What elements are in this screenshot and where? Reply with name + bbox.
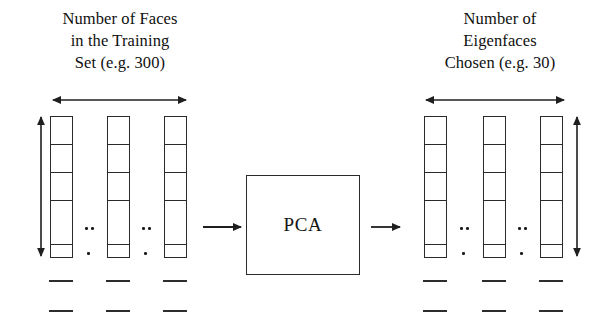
left-dash-row-1-item-3 xyxy=(163,280,187,282)
pca-process-box: PCA xyxy=(246,175,360,275)
ellipsis-left-2 xyxy=(142,227,154,257)
eigenface-vector-1-cell-3 xyxy=(425,173,446,201)
face-vector-n-cell-1 xyxy=(165,117,186,145)
ellipsis-right-1-dot-b xyxy=(466,227,469,230)
ellipsis-right-2 xyxy=(518,227,530,257)
ellipsis-left-1-dot-c xyxy=(87,252,90,255)
eigenface-vector-1-cell-2 xyxy=(425,145,446,173)
ellipsis-right-2-dot-b xyxy=(524,227,527,230)
face-vector-2-cell-3 xyxy=(108,173,129,201)
ellipsis-right-2-dot-c xyxy=(520,252,523,255)
eigenface-vector-2 xyxy=(483,116,506,258)
eigenface-vector-k-cell-2 xyxy=(541,145,562,173)
eigenface-vector-k-cell-5 xyxy=(541,245,562,259)
ellipsis-left-1-dot-a xyxy=(85,227,88,230)
face-vector-1 xyxy=(50,116,73,258)
ellipsis-right-1 xyxy=(460,227,472,257)
ellipsis-right-2-dot-a xyxy=(518,227,521,230)
face-vector-2-cell-4 xyxy=(108,201,129,245)
ellipsis-right-1-dot-a xyxy=(460,227,463,230)
diagram-canvas: Number of Faces in the Training Set (e.g… xyxy=(0,0,603,328)
face-vector-2-cell-1 xyxy=(108,117,129,145)
ellipsis-left-1-dot-b xyxy=(91,227,94,230)
ellipsis-right-1-dot-c xyxy=(462,252,465,255)
ellipsis-left-2-dot-a xyxy=(142,227,145,230)
face-vector-2-cell-5 xyxy=(108,245,129,259)
face-vector-1-cell-2 xyxy=(51,145,72,173)
eigenface-vector-1-cell-4 xyxy=(425,201,446,245)
right-dash-row-1-item-2 xyxy=(482,280,506,282)
eigenface-vector-2-cell-4 xyxy=(484,201,505,245)
eigenface-vector-1-cell-1 xyxy=(425,117,446,145)
face-vector-n-cell-5 xyxy=(165,245,186,259)
face-vector-1-cell-5 xyxy=(51,245,72,259)
face-vector-2 xyxy=(107,116,130,258)
caption-left-line-1: Number of Faces xyxy=(10,8,230,30)
right-dash-row-2-item-3 xyxy=(539,310,563,312)
eigenface-vector-2-cell-5 xyxy=(484,245,505,259)
ellipsis-left-2-dot-c xyxy=(144,252,147,255)
face-vector-1-cell-1 xyxy=(51,117,72,145)
face-vector-2-cell-2 xyxy=(108,145,129,173)
caption-left: Number of Faces in the Training Set (e.g… xyxy=(10,8,230,73)
right-dash-row-1-item-3 xyxy=(539,280,563,282)
caption-right-line-1: Number of xyxy=(400,8,600,30)
left-dash-row-2-item-2 xyxy=(106,310,130,312)
caption-left-line-3: Set (e.g. 300) xyxy=(10,52,230,74)
face-vector-1-cell-4 xyxy=(51,201,72,245)
eigenface-vector-k-cell-1 xyxy=(541,117,562,145)
face-vector-n-cell-4 xyxy=(165,201,186,245)
right-dash-row-1-item-1 xyxy=(423,280,447,282)
eigenface-vector-1 xyxy=(424,116,447,258)
eigenface-vector-k-cell-3 xyxy=(541,173,562,201)
left-dash-row-1-item-2 xyxy=(106,280,130,282)
eigenface-vector-2-cell-3 xyxy=(484,173,505,201)
caption-right: Number of Eigenfaces Chosen (e.g. 30) xyxy=(400,8,600,73)
caption-right-line-2: Eigenfaces xyxy=(400,30,600,52)
right-dash-row-2-item-2 xyxy=(482,310,506,312)
face-vector-n-cell-2 xyxy=(165,145,186,173)
eigenface-vector-2-cell-2 xyxy=(484,145,505,173)
eigenface-vector-k-cell-4 xyxy=(541,201,562,245)
eigenface-vector-2-cell-1 xyxy=(484,117,505,145)
eigenface-vector-k xyxy=(540,116,563,258)
left-dash-row-2-item-3 xyxy=(163,310,187,312)
left-dash-row-2-item-1 xyxy=(49,310,73,312)
face-vector-1-cell-3 xyxy=(51,173,72,201)
right-dash-row-2-item-1 xyxy=(423,310,447,312)
face-vector-n-cell-3 xyxy=(165,173,186,201)
eigenface-vector-1-cell-5 xyxy=(425,245,446,259)
caption-left-line-2: in the Training xyxy=(10,30,230,52)
caption-right-line-3: Chosen (e.g. 30) xyxy=(400,52,600,74)
left-dash-row-1-item-1 xyxy=(49,280,73,282)
ellipsis-left-2-dot-b xyxy=(148,227,151,230)
pca-label: PCA xyxy=(284,214,323,236)
face-vector-n xyxy=(164,116,187,258)
ellipsis-left-1 xyxy=(85,227,97,257)
